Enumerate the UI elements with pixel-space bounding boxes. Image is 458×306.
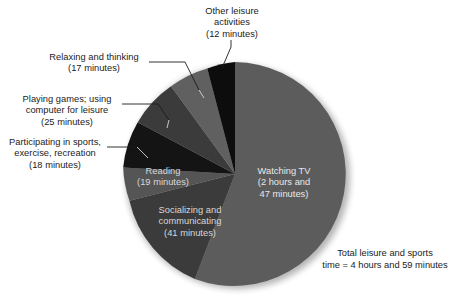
label-participating-in-sports: Participating in sports, exercise, recre… <box>2 137 108 171</box>
label-socializing-and-communicating: Socializing and communicating (41 minute… <box>140 205 240 239</box>
label-playing-games: Playing games; using computer for leisur… <box>12 94 122 128</box>
label-relaxing-and-thinking: Relaxing and thinking (17 minutes) <box>38 52 150 75</box>
label-reading: Reading (19 minutes) <box>126 166 200 189</box>
total-leisure-note: Total leisure and sports time = 4 hours … <box>312 248 458 272</box>
pie-chart-figure: Other leisure activities (12 minutes) Re… <box>0 0 458 306</box>
label-other-leisure-activities: Other leisure activities (12 minutes) <box>178 6 286 40</box>
label-watching-tv: Watching TV (2 hours and 47 minutes) <box>238 166 330 200</box>
